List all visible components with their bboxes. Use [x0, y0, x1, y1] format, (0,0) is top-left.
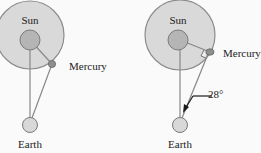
sun-icon — [168, 30, 188, 50]
earth-icon — [173, 118, 188, 133]
sun-label: Sun — [21, 14, 39, 26]
mercury-earth-line — [32, 64, 52, 118]
earth-label: Earth — [168, 138, 192, 150]
earth-label: Earth — [18, 138, 42, 150]
left-panel: Sun Mercury Earth — [0, 1, 107, 150]
angle-arrowhead-icon — [183, 104, 189, 113]
mercury-label: Mercury — [223, 47, 261, 59]
mercury-icon — [206, 49, 214, 55]
earth-icon — [23, 118, 38, 133]
diagram-canvas: Sun Mercury Earth Sun Mercury 28° Earth — [0, 0, 261, 153]
sun-label: Sun — [169, 14, 187, 26]
right-panel: Sun Mercury 28° Earth — [145, 0, 261, 150]
mercury-icon — [48, 60, 55, 67]
angle-label: 28° — [208, 88, 223, 100]
sun-icon — [20, 30, 40, 50]
mercury-label: Mercury — [69, 60, 107, 72]
